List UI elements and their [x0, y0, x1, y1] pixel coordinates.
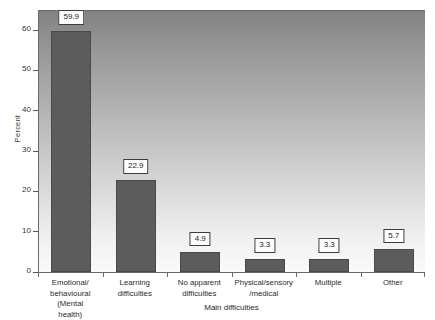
bar[interactable]	[245, 259, 285, 272]
x-axis-category-labels: Emotional/behavioural(Mentalhealth)Learn…	[38, 278, 425, 320]
bar-slot: 3.3	[297, 11, 362, 272]
bar-slot: 5.7	[362, 11, 427, 272]
x-axis-category-label-line: Multiple	[296, 278, 361, 289]
bar[interactable]	[51, 31, 91, 272]
bar-value-label: 22.9	[123, 159, 149, 174]
y-axis-tick-label: 10	[22, 226, 31, 235]
bar-value-label: 4.9	[190, 232, 211, 247]
x-axis-tick-mark	[424, 272, 425, 277]
x-axis-title: Main difficulties	[38, 303, 425, 312]
x-axis-category-label: Other	[361, 278, 426, 289]
x-axis-tick-mark	[232, 272, 233, 277]
x-axis-tick-mark	[361, 272, 362, 277]
bars-layer: 59.922.94.93.33.35.7	[39, 11, 425, 272]
y-axis-tick-label: 60	[22, 24, 31, 33]
x-axis-category-label-line: Other	[361, 278, 426, 289]
x-axis-category-label-line: Physical/sensory	[232, 278, 297, 289]
bar[interactable]	[374, 249, 414, 272]
x-axis-category-label-line: difficulties	[167, 289, 232, 300]
bar[interactable]	[309, 259, 349, 272]
x-axis-category-label-line: No apparent	[167, 278, 232, 289]
bar-slot: 59.9	[39, 11, 104, 272]
y-axis-tick-label: 50	[22, 64, 31, 73]
plot-inner: 59.922.94.93.33.35.7	[39, 11, 425, 272]
x-axis-category-label: Physical/sensory/medical	[232, 278, 297, 299]
bar[interactable]	[180, 252, 220, 272]
bar-slot: 3.3	[233, 11, 298, 272]
y-axis-tick-label: 20	[22, 185, 31, 194]
x-axis-category-label-line: Learning	[103, 278, 168, 289]
bar[interactable]	[116, 180, 156, 272]
bar-value-label: 59.9	[58, 10, 84, 25]
x-axis-tick-mark	[38, 272, 39, 277]
x-axis-category-label-line: behavioural	[38, 289, 103, 300]
x-axis-category-label-line: /medical	[232, 289, 297, 300]
y-axis-tick-label: 40	[22, 105, 31, 114]
x-axis-tick-mark	[103, 272, 104, 277]
x-axis-category-label: Learningdifficulties	[103, 278, 168, 299]
y-axis-tick-label: 30	[22, 145, 31, 154]
bar-value-label: 5.7	[383, 229, 404, 244]
bar-value-label: 3.3	[319, 238, 340, 253]
x-axis-category-label: No apparentdifficulties	[167, 278, 232, 299]
x-axis-category-label: Emotional/behavioural(Mentalhealth)	[38, 278, 103, 320]
x-axis-category-label-line: Emotional/	[38, 278, 103, 289]
bar-chart: Percent 0102030405060 59.922.94.93.33.35…	[0, 0, 435, 320]
x-axis-category-label-line: difficulties	[103, 289, 168, 300]
bar-slot: 4.9	[168, 11, 233, 272]
bar-value-label: 3.3	[254, 238, 275, 253]
x-axis-category-label: Multiple	[296, 278, 361, 289]
x-axis-tick-mark	[296, 272, 297, 277]
plot-area: 59.922.94.93.33.35.7	[38, 10, 425, 272]
bar-slot: 22.9	[104, 11, 169, 272]
y-axis-tick-label: 0	[27, 266, 31, 275]
x-axis-tick-mark	[167, 272, 168, 277]
x-axis-ticks	[38, 272, 425, 277]
y-axis-ticks: 0102030405060	[0, 10, 38, 272]
